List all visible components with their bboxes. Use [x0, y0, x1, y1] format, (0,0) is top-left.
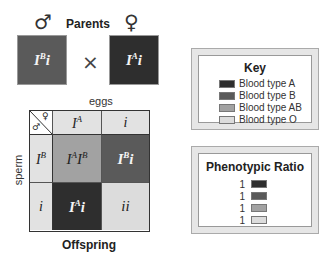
offspring-label: Offspring	[62, 238, 116, 252]
key-item: Blood type B	[219, 90, 311, 101]
ratio-value: 1	[235, 215, 245, 226]
parents-title: Parents	[66, 17, 110, 31]
col-header-2: i	[102, 111, 149, 135]
ratio-item: 1	[235, 202, 311, 214]
key-label: Blood type A	[239, 78, 295, 89]
ratio-item: 1	[235, 178, 311, 190]
female-symbol-icon: ♀	[124, 12, 139, 32]
offspring-cell-ii: ii	[102, 183, 149, 230]
swatch-ratio-ab	[251, 204, 267, 212]
swatch-ratio-o	[251, 216, 267, 224]
corner-cell: ♂ ♀	[30, 111, 53, 135]
male-parent-genotype: IBi	[18, 36, 66, 84]
key-label: Blood type AB	[239, 102, 302, 113]
swatch-ratio-a	[251, 180, 267, 188]
ratio-list: 1 1 1 1	[199, 178, 311, 226]
key-item: Blood type A	[219, 78, 311, 89]
key-panel: Key Blood type A Blood type B Blood type…	[191, 48, 319, 130]
offspring-cell-IAIB: IAIB	[53, 135, 102, 183]
col-header-1: IA	[53, 111, 102, 135]
key-label: Blood type O	[239, 114, 297, 125]
ratio-value: 1	[235, 191, 245, 202]
ratio-item: 1	[235, 214, 311, 226]
punnett-square: ♂ ♀ IA i IB i IAIB IBi IAi ii	[29, 110, 150, 232]
swatch-blood-type-b	[219, 92, 235, 100]
swatch-blood-type-ab	[219, 104, 235, 112]
key-item: Blood type AB	[219, 102, 311, 113]
swatch-blood-type-o	[219, 116, 235, 124]
male-symbol-icon: ♂	[34, 12, 52, 32]
eggs-label: eggs	[89, 95, 113, 107]
row-header-1: IB	[30, 135, 53, 183]
male-symbol-icon: ♂	[32, 122, 40, 132]
cross-symbol-icon: ×	[82, 50, 99, 74]
offspring-cell-IBi: IBi	[102, 135, 149, 183]
offspring-cell-IAi: IAi	[53, 183, 102, 230]
ratio-value: 1	[235, 203, 245, 214]
sperm-label: sperm	[12, 148, 24, 192]
female-symbol-icon: ♀	[42, 111, 49, 121]
phenotypic-ratio-panel: Phenotypic Ratio 1 1 1 1	[191, 146, 319, 234]
key-label: Blood type B	[239, 90, 296, 101]
ratio-title: Phenotypic Ratio	[199, 160, 311, 174]
row-header-2: i	[30, 183, 53, 230]
ratio-item: 1	[235, 190, 311, 202]
swatch-ratio-b	[251, 192, 267, 200]
female-parent-genotype: IAi	[110, 36, 158, 84]
swatch-blood-type-a	[219, 80, 235, 88]
key-title: Key	[199, 61, 311, 75]
key-list: Blood type A Blood type B Blood type AB …	[199, 78, 311, 125]
ratio-value: 1	[235, 179, 245, 190]
key-item: Blood type O	[219, 114, 311, 125]
